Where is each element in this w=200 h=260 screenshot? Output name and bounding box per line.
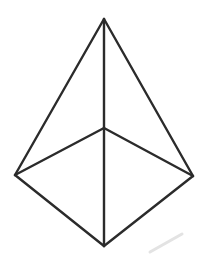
pyramid-figure-canvas <box>0 0 200 260</box>
